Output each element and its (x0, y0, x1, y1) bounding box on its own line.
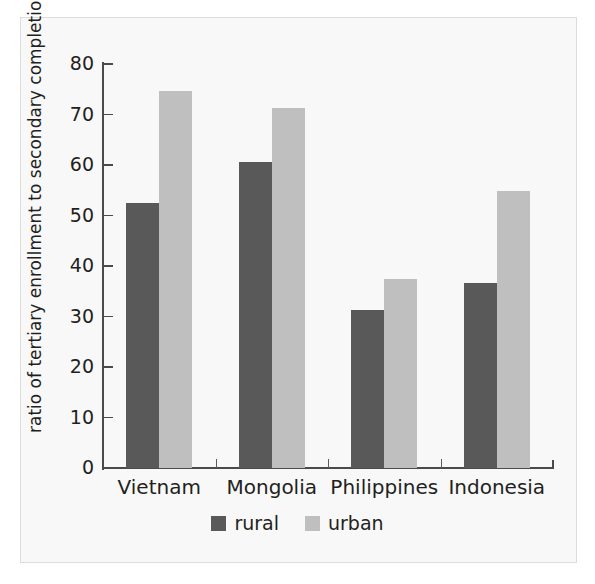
legend-item-rural: rural (211, 514, 279, 533)
bar-vietnam-rural (126, 203, 159, 468)
y-axis-tick-label: 10 (54, 408, 94, 427)
x-axis-label-philippines: Philippines (328, 476, 441, 498)
legend-swatch-urban (305, 516, 320, 531)
bar-philippines-urban (384, 279, 417, 468)
bar-mongolia-rural (239, 162, 272, 468)
x-axis-label-indonesia: Indonesia (441, 476, 554, 498)
y-axis-tick-label: 30 (54, 307, 94, 326)
bar-indonesia-rural (464, 283, 497, 468)
y-axis-tick-label: 70 (54, 105, 94, 124)
y-axis-tick-label: 80 (54, 54, 94, 73)
legend-swatch-rural (211, 516, 226, 531)
legend-label-urban: urban (328, 514, 384, 533)
y-axis-tick-label: 20 (54, 357, 94, 376)
chart-figure: 01020304050607080 ratio of tertiary enro… (0, 0, 595, 584)
y-axis-tick-label: 0 (54, 458, 94, 477)
y-axis-tick-label: 60 (54, 155, 94, 174)
chart-legend: ruralurban (0, 514, 595, 533)
bar-mongolia-urban (272, 108, 305, 468)
legend-item-urban: urban (305, 514, 384, 533)
plot-area (103, 64, 553, 468)
y-axis-tick-label: 50 (54, 206, 94, 225)
bar-philippines-rural (351, 310, 384, 468)
y-axis-title: ratio of tertiary enrollment to secondar… (25, 13, 45, 433)
x-axis-label-vietnam: Vietnam (103, 476, 216, 498)
x-axis-label-mongolia: Mongolia (216, 476, 329, 498)
bar-vietnam-urban (159, 91, 192, 468)
legend-label-rural: rural (234, 514, 279, 533)
bar-indonesia-urban (497, 191, 530, 468)
y-axis-tick-label: 40 (54, 256, 94, 275)
